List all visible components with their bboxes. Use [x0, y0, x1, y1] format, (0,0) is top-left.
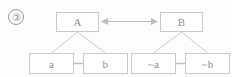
node-a[interactable]: a: [29, 53, 74, 74]
node-A[interactable]: A: [56, 12, 99, 32]
node-b[interactable]: b: [83, 53, 128, 74]
diagram-canvas: ③ A B a b ~a ~b: [0, 0, 232, 77]
node-not-b[interactable]: ~b: [185, 53, 230, 74]
edge-A-to-a: [52, 32, 78, 53]
arrow-head-right-icon: [151, 18, 158, 25]
edge-B-to-nb: [182, 32, 208, 53]
edge-B-to-na: [154, 32, 182, 53]
node-B[interactable]: B: [160, 12, 203, 32]
figure-number-marker: ③: [8, 9, 24, 25]
edge-A-to-b: [78, 32, 106, 53]
arrow-head-left-icon: [101, 18, 108, 25]
node-not-a[interactable]: ~a: [131, 53, 176, 74]
